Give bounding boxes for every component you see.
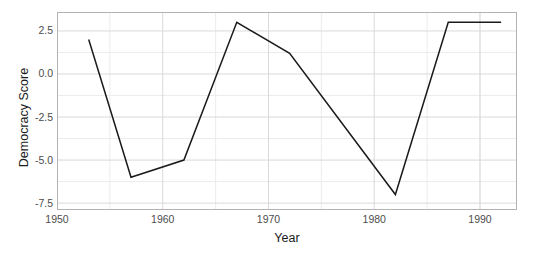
y-tick-label: -7.5 <box>7 198 53 209</box>
x-axis-title: Year <box>57 231 517 246</box>
x-tick-label: 1970 <box>238 214 298 225</box>
x-tick-label: 1990 <box>450 214 510 225</box>
x-tick-label: 1950 <box>27 214 87 225</box>
y-tick-label: -2.5 <box>7 112 53 123</box>
chart-figure: Democracy Score 2.50.0-2.5-5.0-7.5 19501… <box>0 0 538 257</box>
y-tick-label: -5.0 <box>7 155 53 166</box>
chart-plot-area <box>57 12 517 210</box>
plot-panel <box>57 12 517 210</box>
x-tick-label: 1980 <box>344 214 404 225</box>
x-tick-label: 1960 <box>133 214 193 225</box>
panel-background <box>57 12 517 210</box>
y-tick-label: 0.0 <box>7 68 53 79</box>
y-tick-label: 2.5 <box>7 25 53 36</box>
